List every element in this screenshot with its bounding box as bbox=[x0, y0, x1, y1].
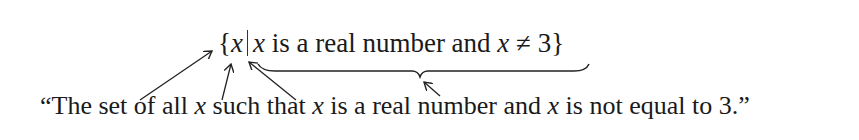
arrow-to-brace bbox=[140, 51, 212, 100]
arrow-to-underbrace bbox=[424, 82, 440, 96]
underbrace bbox=[258, 64, 589, 77]
set-builder-figure: {xx is a real number and x ≠ 3} “The set… bbox=[0, 0, 859, 140]
annotation-arrows bbox=[0, 0, 859, 140]
arrow-to-bar bbox=[249, 62, 296, 100]
arrow-to-set-variable bbox=[222, 64, 231, 100]
